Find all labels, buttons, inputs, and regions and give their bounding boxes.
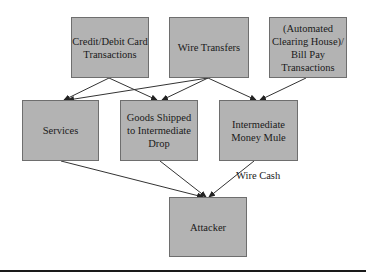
node-intermediate-money-mule: Intermediate Money Mule	[219, 100, 298, 161]
node-label: Goods Shipped to Intermediate Drop	[127, 111, 191, 150]
node-label: Credit/Debit Card Transactions	[72, 35, 148, 61]
node-credit-debit-card-transactions: Credit/Debit Card Transactions	[71, 17, 149, 78]
bottom-rule	[0, 270, 366, 272]
node-label: Wire Transfers	[178, 41, 240, 54]
node-ach-bill-pay-transactions: (Automated Clearing House)/ Bill Pay Tra…	[269, 17, 347, 78]
node-goods-shipped: Goods Shipped to Intermediate Drop	[120, 100, 198, 161]
node-label: Attacker	[190, 221, 226, 234]
node-services: Services	[22, 100, 99, 161]
edge-ach-mule	[260, 78, 306, 100]
edge-wire-mule	[208, 78, 256, 100]
edge-services-attacker	[61, 161, 203, 197]
node-label: (Automated Clearing House)/ Bill Pay Tra…	[272, 22, 344, 74]
node-label: Intermediate Money Mule	[231, 118, 286, 144]
node-label: Services	[43, 124, 79, 137]
node-attacker: Attacker	[169, 197, 247, 257]
node-wire-transfers: Wire Transfers	[169, 17, 249, 78]
edge-wire-services	[68, 78, 208, 100]
edge-credit-goods	[109, 78, 157, 100]
edge-label-wire-cash: Wire Cash	[236, 170, 280, 181]
